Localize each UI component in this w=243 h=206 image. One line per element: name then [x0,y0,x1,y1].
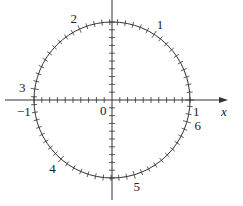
radian-label-2: 2 [71,11,78,26]
origin-label: 0 [100,103,107,118]
circle-tick [47,52,52,56]
circle-tick [126,174,127,180]
circle-tick [186,114,192,115]
x-axis-arrow-icon [219,97,228,103]
radian-label-4: 4 [49,161,56,176]
circle-tick [64,35,68,40]
circle-tick [32,112,38,113]
circle-tick [103,175,104,181]
circle-tick [154,162,157,167]
circle-tick [102,20,103,26]
circle-tick [187,92,193,93]
circle-tick [43,58,48,61]
radian-label-6: 6 [194,118,201,133]
x-pos-one-label: 1 [193,104,200,119]
circle-tick [174,54,179,57]
circle-tick [31,88,39,89]
circle-tick [71,30,74,35]
circle-tick [43,140,48,143]
circle-tick [65,161,68,166]
circle-tick [48,146,53,150]
radian-label-1: 1 [157,17,164,32]
circle-tick [175,141,180,144]
circle-tick [125,20,126,26]
axes [5,0,228,200]
x-neg-one-label: −1 [17,104,31,119]
unit-circle-diagram: 0 −1 1 x 123456 [0,0,243,206]
radian-label-5: 5 [134,179,141,194]
x-axis-label: x [220,104,227,119]
radian-label-3: 3 [19,80,26,95]
labels: 0 −1 1 x [17,103,227,119]
circle-tick [119,175,120,181]
